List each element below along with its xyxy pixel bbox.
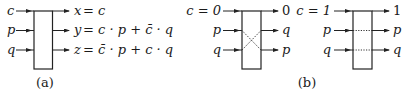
output-q-label: q	[393, 42, 401, 57]
output-z-var: z	[73, 42, 81, 57]
output-y-var: y	[73, 22, 82, 37]
gate-box-b-right	[353, 11, 372, 69]
fredkin-gate-diagram: c p q x = c y = c · p + c̄ · q z = c̄ · …	[0, 0, 407, 100]
output-p-label: p	[393, 22, 402, 37]
diagram-b-right: c = 1 p q 1 p q (b)	[296, 3, 402, 90]
output-q-label: q	[282, 22, 290, 37]
input-c-label: c	[7, 3, 15, 18]
input-p-label: p	[323, 22, 332, 37]
input-p-label: p	[213, 22, 222, 37]
input-c0-label: c = 0	[186, 3, 221, 18]
output-z-eq: = c̄ · p + c · q	[83, 42, 173, 57]
input-c1-label: c = 1	[296, 3, 331, 18]
diagram-a: c p q x = c y = c · p + c̄ · q z = c̄ · …	[7, 3, 173, 90]
output-0-label: 0	[282, 3, 290, 18]
output-p-label: p	[282, 42, 291, 57]
output-1-label: 1	[393, 3, 401, 18]
caption-b: (b)	[298, 75, 316, 90]
output-x-eq: = c	[83, 3, 106, 18]
caption-a: (a)	[36, 75, 54, 90]
gate-box-a	[34, 11, 53, 69]
input-q-label: q	[7, 42, 15, 57]
output-y-eq: = c · p + c̄ · q	[83, 22, 173, 37]
diagram-b-left: c = 0 p q 0 q p	[186, 3, 291, 69]
output-x-var: x	[74, 3, 82, 18]
input-q-label: q	[213, 42, 221, 57]
input-q-label: q	[323, 42, 331, 57]
input-p-label: p	[7, 22, 16, 37]
